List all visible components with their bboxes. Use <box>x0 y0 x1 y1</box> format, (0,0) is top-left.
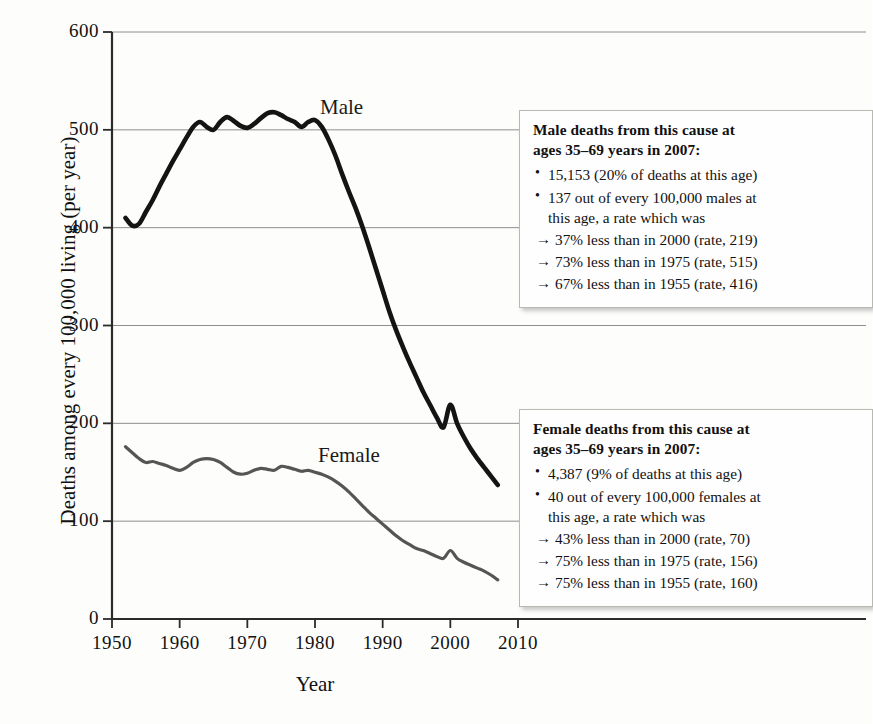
annotation-male-item-text: 37% less than in 2000 (rate, 219) <box>555 231 758 248</box>
annotation-male-item: 15,153 (20% of deaths at this age) <box>533 165 860 185</box>
y-tick-label: 0 <box>29 607 99 629</box>
annotation-female-item: 75% less than in 1955 (rate, 160) <box>535 573 860 593</box>
annotation-female-item-text: 75% less than in 1975 (rate, 156) <box>555 552 758 569</box>
annotation-male-item-subtext: this age, a rate which was <box>548 208 860 228</box>
annotation-female-heading-line2: ages 35–69 years in 2007: <box>533 440 700 457</box>
annotation-female-item: 40 out of every 100,000 females atthis a… <box>533 487 860 527</box>
y-tick-label: 600 <box>29 20 99 42</box>
annotation-female-item: 75% less than in 1975 (rate, 156) <box>535 551 860 571</box>
annotation-female-item: 43% less than in 2000 (rate, 70) <box>535 529 860 549</box>
annotation-female-item-text: 4,387 (9% of deaths at this age) <box>548 465 742 482</box>
y-tick-marks <box>103 32 112 619</box>
annotation-male-item-text: 67% less than in 1955 (rate, 416) <box>555 275 758 292</box>
annotation-female-heading: Female deaths from this cause at ages 35… <box>533 419 860 459</box>
x-axis-title: Year <box>112 672 518 697</box>
annotation-female-item-text: 75% less than in 1955 (rate, 160) <box>555 574 758 591</box>
annotation-male-heading-line1: Male deaths from this cause at <box>533 121 735 138</box>
series-line-male <box>126 112 498 485</box>
x-tick-label: 2010 <box>478 632 558 654</box>
annotation-male-item-text: 15,153 (20% of deaths at this age) <box>548 166 757 183</box>
x-tick-marks <box>112 619 518 628</box>
annotation-male-heading-line2: ages 35–69 years in 2007: <box>533 141 700 158</box>
annotation-male-list: 15,153 (20% of deaths at this age)137 ou… <box>533 165 860 294</box>
annotation-male-heading: Male deaths from this cause at ages 35–6… <box>533 120 860 160</box>
annotation-male-item: 67% less than in 1955 (rate, 416) <box>535 274 860 294</box>
series-line-female <box>126 447 498 580</box>
annotation-box-female: Female deaths from this cause at ages 35… <box>519 409 873 607</box>
y-axis-title: Deaths among every 100,000 living (per y… <box>56 81 81 581</box>
annotation-female-item: 4,387 (9% of deaths at this age) <box>533 464 860 484</box>
annotation-female-item-text: 43% less than in 2000 (rate, 70) <box>555 530 750 547</box>
annotation-male-item-text: 137 out of every 100,000 males at <box>548 189 757 206</box>
annotation-male-item: 73% less than in 1975 (rate, 515) <box>535 252 860 272</box>
series-paths <box>126 112 498 580</box>
annotation-female-heading-line1: Female deaths from this cause at <box>533 420 750 437</box>
series-label-female: Female <box>318 443 380 468</box>
annotation-box-male: Male deaths from this cause at ages 35–6… <box>519 110 873 308</box>
annotation-male-item-text: 73% less than in 1975 (rate, 515) <box>555 253 758 270</box>
annotation-male-item: 137 out of every 100,000 males atthis ag… <box>533 188 860 228</box>
annotation-female-list: 4,387 (9% of deaths at this age)40 out o… <box>533 464 860 593</box>
annotation-female-item-text: 40 out of every 100,000 females at <box>548 488 761 505</box>
annotation-female-item-subtext: this age, a rate which was <box>548 507 860 527</box>
annotation-male-item: 37% less than in 2000 (rate, 219) <box>535 230 860 250</box>
series-label-male: Male <box>320 95 363 120</box>
